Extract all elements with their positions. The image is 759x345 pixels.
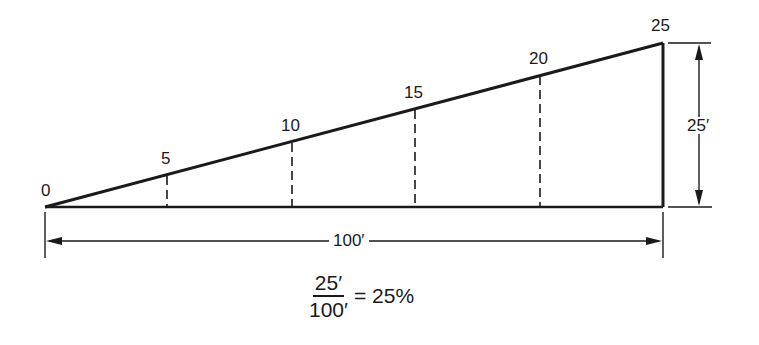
fraction: 25′ 100′ (309, 272, 348, 320)
arrow-left-icon (46, 237, 62, 245)
vertical-dimension-label: 25′ (683, 117, 713, 134)
point-label-10: 10 (281, 117, 300, 134)
point-label-0: 0 (41, 182, 50, 199)
point-label-15: 15 (404, 84, 423, 101)
formula-result: = 25% (354, 284, 414, 308)
fraction-numerator: 25′ (313, 272, 344, 297)
arrow-right-icon (646, 237, 662, 245)
point-label-20: 20 (529, 50, 548, 67)
grade-formula: 25′ 100′ = 25% (309, 272, 414, 320)
point-label-25: 25 (651, 17, 670, 34)
horizontal-dimension-label: 100′ (329, 232, 369, 249)
dashed-verticals (167, 76, 540, 207)
slope-line (45, 43, 663, 207)
fraction-denominator: 100′ (309, 297, 348, 320)
point-label-5: 5 (161, 150, 170, 167)
arrow-down-icon (695, 190, 703, 206)
arrow-up-icon (695, 44, 703, 60)
arrowheads (46, 44, 703, 245)
